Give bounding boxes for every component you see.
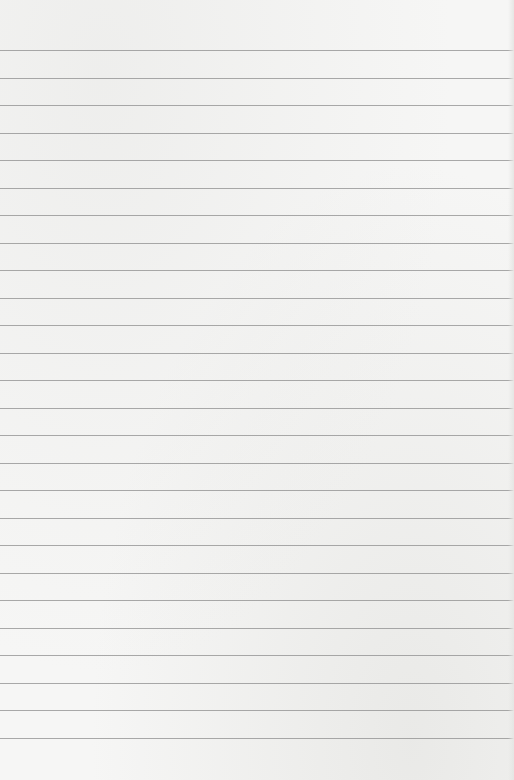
ruled-line (0, 518, 514, 519)
ruled-line (0, 353, 514, 354)
lined-paper (0, 0, 514, 780)
ruled-line (0, 600, 514, 601)
ruled-line (0, 215, 514, 216)
ruled-line (0, 270, 514, 271)
ruled-line (0, 298, 514, 299)
ruled-line (0, 325, 514, 326)
ruled-line (0, 463, 514, 464)
ruled-line (0, 738, 514, 739)
ruled-line (0, 380, 514, 381)
ruled-line (0, 78, 514, 79)
ruled-line (0, 573, 514, 574)
ruled-line (0, 188, 514, 189)
ruled-line (0, 133, 514, 134)
ruled-line (0, 160, 514, 161)
ruled-line (0, 710, 514, 711)
ruled-line (0, 105, 514, 106)
ruled-line (0, 490, 514, 491)
ruled-line (0, 655, 514, 656)
ruled-line (0, 545, 514, 546)
ruled-line (0, 243, 514, 244)
ruled-line (0, 628, 514, 629)
paper-edge-shadow (508, 0, 514, 780)
ruled-line (0, 50, 514, 51)
ruled-line (0, 683, 514, 684)
ruled-line (0, 435, 514, 436)
ruled-line (0, 408, 514, 409)
